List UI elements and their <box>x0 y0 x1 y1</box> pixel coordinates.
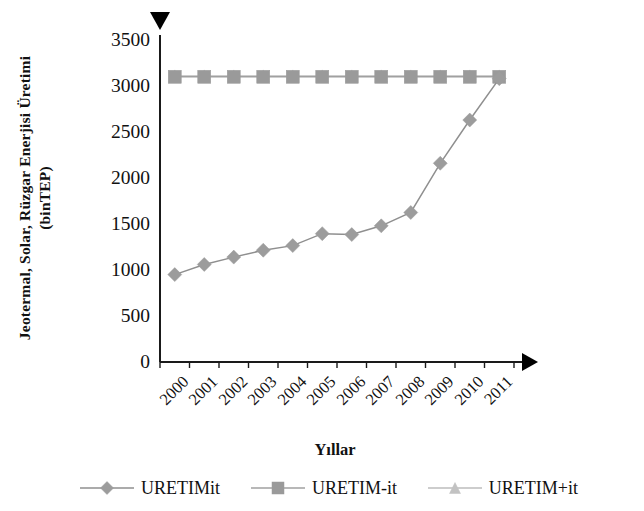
chart-figure: Jeotermal, Solar, Rüzgar Enerjisi Üretim… <box>0 0 644 511</box>
x-axis-tick-labels: 2000200120022003200420052006200720082009… <box>0 0 644 511</box>
legend-item[interactable]: URETIMit <box>78 478 220 499</box>
legend-label: URETIM+it <box>489 478 578 499</box>
diamond-icon <box>78 480 136 496</box>
diamond-marker <box>101 482 114 495</box>
triangle-icon <box>426 480 484 496</box>
legend-label: URETIMit <box>141 478 220 499</box>
chart-legend: URETIMitURETIM-itURETIM+it <box>78 474 578 502</box>
x-axis-title: Yıllar <box>158 440 512 460</box>
legend-item[interactable]: URETIM-it <box>249 478 397 499</box>
legend-label: URETIM-it <box>312 478 397 499</box>
square-icon <box>249 480 307 496</box>
square-marker <box>272 482 284 494</box>
legend-item[interactable]: URETIM+it <box>426 478 578 499</box>
